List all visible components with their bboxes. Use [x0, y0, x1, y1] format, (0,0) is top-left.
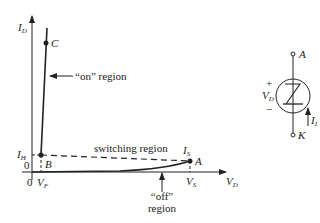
vf-label: VF: [37, 176, 49, 190]
anode-terminal: [291, 52, 295, 56]
off-region-curve: [32, 161, 190, 172]
is-label: IS: [182, 144, 191, 158]
x-axis-label: VD: [226, 175, 238, 189]
point-c: [44, 41, 49, 46]
current-label: II: [310, 114, 318, 128]
point-a: [188, 159, 193, 164]
on-region-curve: [41, 28, 47, 155]
origin-y-label: 0: [24, 159, 30, 171]
plus-sign: +: [266, 77, 272, 89]
point-b: [39, 153, 44, 158]
minus-sign: −: [266, 103, 272, 115]
off-region-label-line1: “off”: [151, 190, 174, 202]
point-a-label: A: [194, 155, 202, 167]
off-region-label-line2: region: [148, 202, 177, 214]
thyristor-symbol: [276, 52, 310, 137]
switching-region-curve: [41, 155, 190, 161]
point-b-label: B: [45, 158, 52, 170]
y-axis-label: ID: [17, 21, 27, 35]
cathode-terminal: [291, 133, 295, 137]
vs-label: VS: [186, 175, 197, 189]
anode-label: A: [298, 48, 306, 60]
switching-region-label: switching region: [94, 142, 168, 154]
i-v-characteristic-diagram: ID C “on” region IH 0 B 0 VF switching r…: [0, 0, 320, 223]
point-c-label: C: [51, 37, 59, 49]
cathode-label: K: [297, 129, 306, 141]
on-region-label: “on” region: [75, 70, 127, 82]
voltage-label: VD: [262, 89, 274, 103]
origin-x-label: 0: [27, 176, 33, 188]
